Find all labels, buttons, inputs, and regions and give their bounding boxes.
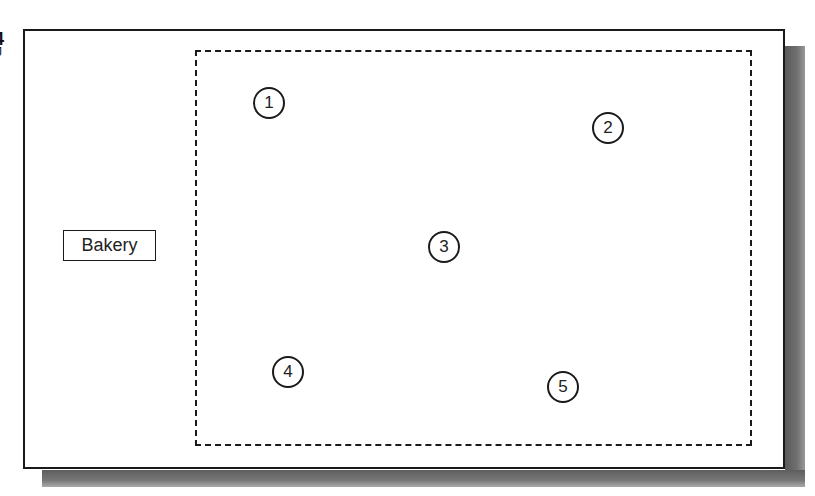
cropped-edge-text: J bbox=[0, 46, 2, 58]
marker-number: 2 bbox=[603, 118, 612, 138]
marker-number: 3 bbox=[439, 237, 448, 257]
bakery-label: Bakery bbox=[81, 235, 137, 256]
bakery-label-box: Bakery bbox=[63, 230, 156, 261]
location-marker-3: 3 bbox=[428, 231, 460, 263]
marker-number: 1 bbox=[264, 93, 273, 113]
location-marker-5: 5 bbox=[547, 371, 579, 403]
location-marker-1: 1 bbox=[253, 87, 285, 119]
marker-number: 4 bbox=[283, 362, 292, 382]
marker-number: 5 bbox=[558, 377, 567, 397]
location-marker-2: 2 bbox=[592, 112, 624, 144]
frame-shadow-right bbox=[785, 46, 805, 486]
location-marker-4: 4 bbox=[272, 356, 304, 388]
frame-shadow-bottom bbox=[42, 470, 805, 487]
